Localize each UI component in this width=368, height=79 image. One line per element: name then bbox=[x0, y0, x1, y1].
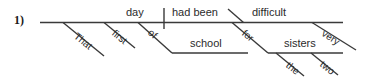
predicate-adjective-slant bbox=[228, 9, 244, 23]
label-had-been: had been bbox=[172, 7, 218, 18]
slant-of bbox=[138, 23, 172, 54]
label-school: school bbox=[190, 38, 222, 49]
label-sisters: sisters bbox=[284, 38, 316, 49]
sentence-diagram-exercise: 1) day had been bbox=[0, 0, 368, 79]
label-day: day bbox=[126, 7, 144, 18]
label-difficult: difficult bbox=[252, 7, 286, 18]
